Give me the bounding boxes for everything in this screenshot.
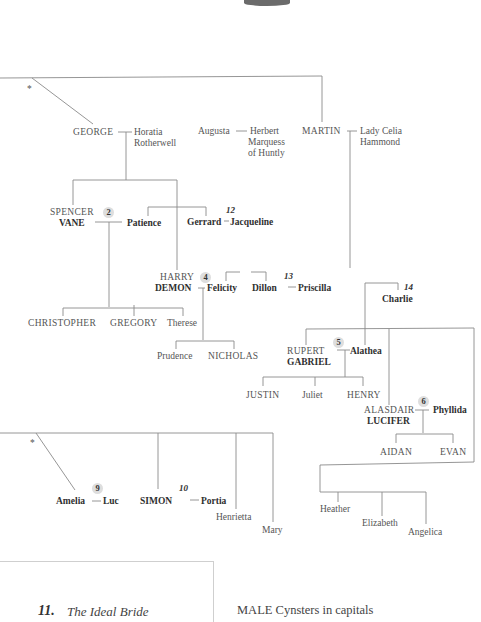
lady-celia-name: Lady Celia: [360, 126, 402, 137]
nicholas-name: NICHOLAS: [208, 351, 258, 362]
prudence-name: Prudence: [157, 351, 192, 362]
book-number-11: 11.: [38, 603, 55, 619]
horatia-name: Horatia: [134, 127, 163, 138]
phyllida-name: Phyllida: [433, 405, 467, 416]
huntly-title: of Huntly: [248, 148, 285, 159]
charlie-name: Charlie: [382, 294, 413, 305]
gabriel-name: GABRIEL: [287, 357, 331, 368]
asterisk-lower: *: [30, 438, 35, 449]
henrietta-name: Henrietta: [216, 512, 251, 523]
book-badge-6: 6: [418, 396, 429, 407]
lucifer-name: LUCIFER: [367, 416, 410, 427]
christopher-name: CHRISTOPHER: [28, 318, 96, 329]
henry-name: HENRY: [347, 390, 381, 401]
priscilla-name: Priscilla: [298, 283, 331, 294]
book-number-10: 10: [179, 483, 188, 493]
vane-name: VANE: [59, 218, 85, 229]
marquess-title: Marquess: [248, 137, 285, 148]
simon-name: SIMON: [140, 496, 172, 507]
elizabeth-name: Elizabeth: [362, 518, 398, 529]
book-badge-2: 2: [103, 207, 114, 218]
gregory-name: GREGORY: [110, 318, 158, 329]
rupert-name: RUPERT: [287, 346, 325, 357]
book-badge-4: 4: [200, 272, 211, 283]
juliet-name: Juliet: [302, 390, 323, 401]
aidan-name: AIDAN: [380, 447, 412, 458]
book-badge-5: 5: [333, 337, 344, 348]
book-number-14: 14: [404, 282, 413, 292]
legend-note: MALE Cynsters in capitals: [237, 603, 373, 618]
demon-name: DEMON: [155, 283, 191, 294]
alasdair-name: ALASDAIR: [364, 405, 414, 416]
martin-name: MARTIN: [302, 126, 341, 137]
augusta-name: Augusta: [198, 126, 230, 137]
book-badge-9: 9: [92, 483, 103, 494]
rotherwell-name: Rotherwell: [134, 138, 176, 149]
evan-name: EVAN: [440, 447, 466, 458]
harry-name: HARRY: [160, 272, 194, 283]
amelia-name: Amelia: [56, 496, 85, 507]
book-title: The Ideal Bride: [67, 604, 149, 620]
luc-name: Luc: [103, 496, 119, 507]
hammond-name: Hammond: [360, 137, 400, 148]
herbert-name: Herbert: [250, 126, 279, 137]
gerrard-name: Gerrard: [187, 217, 221, 228]
jacqueline-name: Jacqueline: [230, 217, 273, 228]
patience-name: Patience: [127, 218, 161, 229]
felicity-name: Felicity: [207, 283, 237, 294]
book-number-12: 12: [226, 205, 235, 215]
alathea-name: Alathea: [350, 346, 382, 357]
therese-name: Therese: [167, 318, 197, 329]
mary-name: Mary: [262, 525, 283, 536]
george-name: GEORGE: [73, 127, 113, 138]
asterisk-top: *: [27, 84, 32, 95]
portia-name: Portia: [201, 496, 226, 507]
dillon-name: Dillon: [252, 283, 277, 294]
angelica-name: Angelica: [408, 527, 442, 538]
spencer-name: SPENCER: [50, 207, 94, 218]
heather-name: Heather: [320, 504, 350, 515]
book-number-13: 13: [284, 271, 293, 281]
justin-name: JUSTIN: [246, 390, 279, 401]
